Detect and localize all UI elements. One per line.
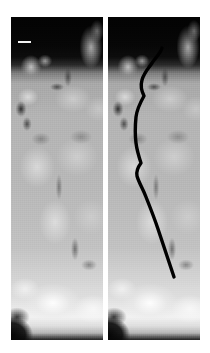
panel-right-annotated: [108, 17, 200, 340]
figure-container: [0, 0, 210, 353]
panel-left-unannotated: [11, 17, 103, 340]
scale-bar: [18, 41, 31, 43]
panel-vignette-right: [108, 17, 200, 340]
panel-vignette-left: [11, 17, 103, 340]
tissue-image-left: [11, 17, 103, 340]
tissue-image-right: [108, 17, 200, 340]
